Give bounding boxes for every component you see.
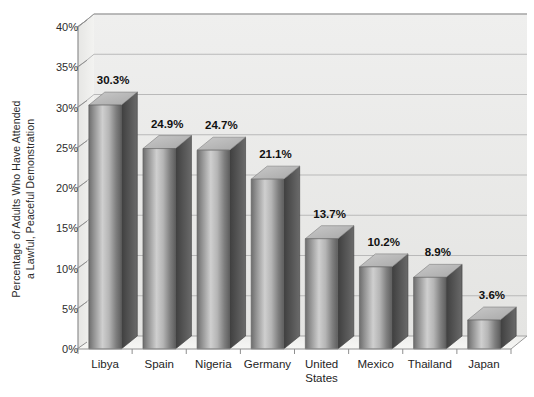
bar-value-label: 24.7%	[205, 119, 238, 131]
bar-value-label: 10.2%	[367, 236, 400, 248]
bar-value-label: 3.6%	[479, 289, 505, 301]
bar-value-label: 24.9%	[151, 118, 184, 130]
bar-value-label: 30.3%	[97, 74, 130, 86]
bar-chart: Percentage of Adults Who Have Attended a…	[0, 0, 534, 397]
bar-value-label: 21.1%	[259, 148, 292, 160]
bar-value-label: 13.7%	[313, 208, 346, 220]
bar-value-labels: 30.3%24.9%24.7%21.1%13.7%10.2%8.9%3.6%	[0, 0, 534, 397]
bar-value-label: 8.9%	[425, 246, 451, 258]
